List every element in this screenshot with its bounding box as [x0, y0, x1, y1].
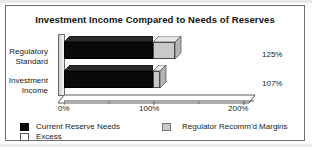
category-label-investment-income: Investment Income — [9, 76, 48, 95]
category-label-regulatory-standard: Regulatory Standard — [9, 47, 48, 66]
x-axis — [64, 100, 260, 101]
chart-frame: Investment Income Compared to Needs of R… — [5, 5, 305, 141]
x-tick-label-200: 200% — [228, 104, 248, 113]
bar-top-face-dark — [64, 36, 153, 42]
legend-swatch-gray-icon — [162, 123, 171, 131]
chart-title: Investment Income Compared to Needs of R… — [6, 14, 304, 25]
bar-segment-regulator-margins — [153, 42, 175, 59]
bar-segment-current-reserve-needs — [64, 42, 153, 59]
chart-screenshot: Investment Income Compared to Needs of R… — [0, 0, 312, 147]
bar-segment-regulator-margins — [153, 71, 160, 88]
chart-legend: Current Reserve Needs Excess Regulator R… — [20, 121, 306, 145]
legend-swatch-white-icon — [20, 133, 29, 141]
bar-top-face-dark — [64, 65, 153, 71]
x-tick-label-100: 100% — [139, 104, 159, 113]
bar-right-face-gray — [160, 65, 166, 88]
bar-segment-current-reserve-needs — [64, 71, 153, 88]
value-label-regulatory-standard: 125% — [262, 50, 282, 59]
legend-swatch-black-icon — [20, 123, 29, 131]
legend-label-current-reserve-needs: Current Reserve Needs — [36, 122, 120, 131]
x-tick-label-0: 0% — [58, 104, 70, 113]
bar-right-face-gray — [175, 36, 181, 59]
page-edge-top — [0, 0, 312, 3]
category-label-line1: Regulatory — [9, 47, 48, 56]
legend-label-regulator-margins: Regulator Recomm'd Margins — [182, 122, 288, 131]
category-label-line2: Standard — [16, 57, 48, 66]
legend-label-excess: Excess — [36, 132, 62, 141]
plot-area — [64, 36, 254, 100]
category-label-line1: Investment — [9, 76, 48, 85]
category-label-line2: Income — [22, 86, 48, 95]
value-label-investment-income: 107% — [262, 79, 282, 88]
